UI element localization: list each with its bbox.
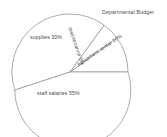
pie-chart: Departmental Budget supplies 30% staff s… bbox=[0, 0, 167, 137]
pie-label-staff-salaries: staff salaries 55% bbox=[37, 90, 80, 96]
pie-chart-graphic bbox=[0, 0, 167, 137]
pie-label-supplies: supplies 30% bbox=[30, 34, 62, 40]
chart-title: Departmental Budget bbox=[102, 9, 154, 15]
